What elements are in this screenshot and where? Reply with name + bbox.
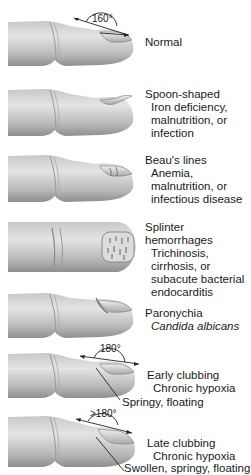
finger-splinter-hemorrhages — [0, 216, 140, 282]
label-cause: cirrhosis, or — [145, 260, 244, 273]
label-cause: malnutrition, or — [145, 180, 242, 193]
label-title: Early clubbing — [147, 369, 235, 382]
label-paronychia: Paronychia Candida albicans — [145, 307, 239, 333]
finger-late-clubbing: >180° — [0, 407, 140, 473]
angle-label-late-clubbing: >180° — [90, 409, 117, 419]
finger-early-clubbing: 180° — [0, 340, 140, 406]
angle-label-early-clubbing: 180° — [100, 344, 121, 354]
spoon-finger-illustration — [0, 84, 140, 144]
label-cause: endocarditis — [145, 286, 244, 299]
label-cause: subacute bacterial — [145, 273, 244, 286]
finger-spoon-shaped — [0, 84, 140, 144]
beaus-lines-finger-illustration — [0, 150, 140, 210]
finger-normal: 160° — [0, 10, 140, 70]
label-early-clubbing: Early clubbing Chronic hypoxia — [147, 369, 235, 395]
label-splinter-hemorrhages: Splinter hemorrhages Trichinosis, cirrho… — [145, 221, 244, 299]
label-cause: malnutrition, or — [145, 114, 228, 127]
label-cause: Trichinosis, — [145, 247, 244, 260]
finger-paronychia — [0, 286, 140, 346]
paronychia-finger-illustration — [0, 286, 140, 346]
label-cause: Chronic hypoxia — [147, 382, 235, 395]
label-title: Normal — [145, 36, 182, 49]
normal-finger-illustration — [0, 10, 140, 70]
angle-label-normal: 160° — [92, 14, 113, 24]
finger-beaus-lines — [0, 150, 140, 210]
label-cause: Candida albicans — [145, 320, 239, 333]
label-title: Splinter — [145, 221, 244, 234]
splinter-finger-illustration — [0, 216, 140, 282]
late-clubbing-finger-illustration — [0, 407, 140, 473]
label-cause: infection — [145, 127, 228, 140]
callout-late-clubbing: Swollen, springy, floating — [124, 462, 250, 475]
label-title: hemorrhages — [145, 234, 244, 247]
label-beaus-lines: Beau's lines Anemia, malnutrition, or in… — [145, 154, 242, 206]
label-normal: Normal — [145, 36, 182, 49]
label-title: Paronychia — [145, 307, 239, 320]
label-cause: Anemia, — [145, 167, 242, 180]
label-title: Spoon-shaped — [145, 88, 228, 101]
label-title: Late clubbing — [147, 437, 235, 450]
label-title: Beau's lines — [145, 154, 242, 167]
label-spoon-shaped: Spoon-shaped Iron deficiency, malnutriti… — [145, 88, 228, 140]
label-cause: infectious disease — [145, 193, 242, 206]
label-cause: Iron deficiency, — [145, 101, 228, 114]
label-late-clubbing: Late clubbing Chronic hypoxia — [147, 437, 235, 463]
